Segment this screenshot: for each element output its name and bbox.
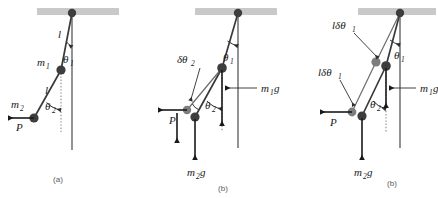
label-displacement-lower: lδθ <box>318 66 332 78</box>
panel-label-b: (b) <box>218 184 228 193</box>
label-weight-m2g-g: g <box>200 166 206 178</box>
label-angle-theta1: θ <box>223 51 229 63</box>
label-weight-m1g-g: g <box>433 82 438 94</box>
label-weight-m2g: m <box>187 166 195 178</box>
pivot-point <box>396 9 404 17</box>
label-weight-m2g: m <box>354 166 362 178</box>
label-weight-m1g: m <box>420 82 428 94</box>
label-mass-m2-sub: 2 <box>20 104 24 113</box>
label-weight-m1g: m <box>261 82 269 94</box>
pivot-point <box>68 9 76 17</box>
label-displacement-upper-sub: 1 <box>352 25 356 34</box>
label-angle-theta2: θ <box>205 99 211 111</box>
label-rod-lower-l: l <box>45 84 48 96</box>
mass-m1-bob-displaced <box>371 57 380 66</box>
label-angle-theta1-sub: 1 <box>70 59 74 68</box>
label-angle-theta1-sub: 1 <box>230 57 234 66</box>
label-rod-upper-l: l <box>58 28 61 40</box>
label-mass-m2: m <box>11 98 19 110</box>
label-angle-theta2-sub: 2 <box>212 105 216 114</box>
label-virtual-angle-delta-theta2-sub: 2 <box>191 59 195 68</box>
label-angle-theta2: θ <box>45 100 51 112</box>
angle-arc-theta1 <box>67 42 72 47</box>
label-force-P: P <box>15 121 23 133</box>
mass-m1-bob <box>56 65 65 74</box>
label-virtual-angle-delta-theta2: δθ <box>177 53 188 65</box>
panel-label-a: (a) <box>53 175 63 184</box>
panel-c: θ 1 θ 2 lδθ 1 lδθ 1 m 1 g m 2 g P (b) <box>290 0 438 198</box>
label-displacement-upper: lδθ <box>332 19 346 31</box>
label-angle-theta2-sub: 2 <box>52 106 56 115</box>
angle-arc-delta-theta2 <box>193 104 199 110</box>
label-force-P: P <box>168 114 176 126</box>
leader-displacement-upper <box>354 33 378 58</box>
ceiling-support <box>37 8 119 15</box>
panel-label-c: (b) <box>387 179 397 188</box>
leader-displacement-lower <box>340 80 354 106</box>
label-angle-theta2-sub: 2 <box>377 104 381 113</box>
pivot-point <box>234 9 242 17</box>
label-weight-m1g-g: g <box>274 82 280 94</box>
label-mass-m1: m <box>37 56 45 68</box>
label-force-P: P <box>329 116 337 128</box>
label-weight-m2g-g: g <box>367 166 373 178</box>
label-displacement-lower-sub: 1 <box>338 72 342 81</box>
label-angle-theta2: θ <box>370 98 376 110</box>
panel-a: l l m 1 m 2 θ 1 θ 2 P (a) <box>0 0 145 198</box>
label-angle-theta1: θ <box>63 53 69 65</box>
label-mass-m1-sub: 1 <box>46 62 50 71</box>
figure-root: l l m 1 m 2 θ 1 θ 2 P (a) <box>0 0 438 198</box>
panel-b: θ 1 θ 2 δθ 2 m 1 g m 2 g P (b) <box>145 0 290 198</box>
label-angle-theta1-sub: 1 <box>401 55 405 64</box>
label-angle-theta1: θ <box>394 49 400 61</box>
